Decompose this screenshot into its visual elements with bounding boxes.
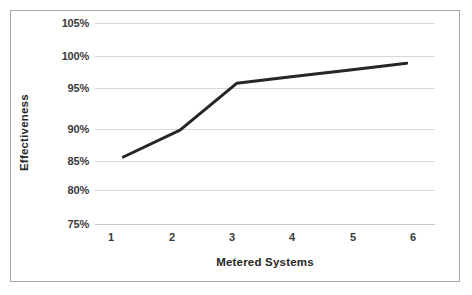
- gridline-105: [95, 23, 435, 24]
- y-tick-80: 80%: [29, 185, 89, 196]
- x-tick-2: 2: [157, 231, 187, 243]
- plot-area: [95, 23, 435, 224]
- gridline-75-baseline: [95, 224, 435, 225]
- gridline-95: [95, 88, 435, 89]
- y-axis-tick-labels: 105% 100% 95% 90% 85% 80% 75%: [27, 0, 89, 295]
- y-tick-85: 85%: [29, 156, 89, 167]
- gridline-80: [95, 190, 435, 191]
- gridline-100: [95, 56, 435, 57]
- y-tick-90: 90%: [29, 124, 89, 135]
- y-tick-105: 105%: [29, 18, 89, 29]
- gridline-90: [95, 129, 435, 130]
- x-tick-6: 6: [398, 231, 428, 243]
- gridline-85: [95, 161, 435, 162]
- y-tick-95: 95%: [29, 83, 89, 94]
- y-tick-100: 100%: [29, 51, 89, 62]
- x-tick-3: 3: [217, 231, 247, 243]
- x-tick-4: 4: [277, 231, 307, 243]
- chart-screenshot: 105% 100% 95% 90% 85% 80% 75% 1 2 3 4 5 …: [0, 0, 472, 295]
- x-tick-1: 1: [96, 231, 126, 243]
- x-tick-5: 5: [338, 231, 368, 243]
- x-axis-title: Metered Systems: [95, 256, 435, 268]
- y-axis-title: Effectiveness: [18, 78, 34, 188]
- y-tick-75: 75%: [29, 219, 89, 230]
